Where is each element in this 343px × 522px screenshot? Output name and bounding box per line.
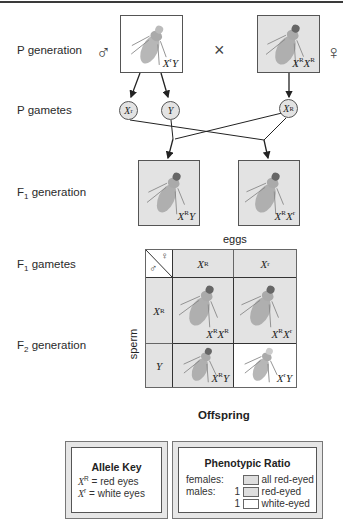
egg-header-xr: Xr <box>234 250 296 278</box>
label-p-generation: P generation <box>17 44 82 56</box>
allele-key-entry: Xr = white eyes <box>72 487 161 499</box>
eggs-label: eggs <box>223 233 247 245</box>
p-female-fly-box: XRXR <box>257 15 320 73</box>
label-f1-generation: F1 generation <box>17 186 86 201</box>
allele-key-box: Allele Key XR = red eyes Xr = white eyes <box>65 441 168 519</box>
label-f1-gametes: F1 gametes <box>17 258 76 273</box>
genotype-label: XRY <box>211 371 229 384</box>
phenotypic-ratio-inner: Phenotypic Ratio females: all red-eyed m… <box>178 447 317 513</box>
ratio-row-females: females: all red-eyed <box>186 474 314 485</box>
punnett-cell-XRXR: XRXR <box>173 278 234 344</box>
gamete-xr: Xr <box>119 101 138 120</box>
genotype-label: XrY <box>163 56 178 69</box>
sperm-header-y: Y <box>146 344 173 387</box>
genotype-label: XRXr <box>272 327 292 340</box>
offspring-label: Offspring <box>198 409 250 421</box>
male-symbol-icon: ♂ <box>96 42 111 62</box>
f1-male-fly-box: XRY <box>138 160 200 226</box>
female-symbol-icon: ♀ <box>161 250 169 261</box>
genotype-label: XRY <box>177 209 195 222</box>
punnett-cell-XRXr: XRXr <box>234 278 296 344</box>
red-eyed-swatch <box>243 475 259 485</box>
f1-female-fly-box: XRXr <box>238 160 300 226</box>
gamete-y: Y <box>161 101 180 120</box>
genotype-label: XRXr <box>275 209 295 222</box>
cross-symbol-icon: × <box>214 41 225 59</box>
ratio-row-males-white: 1 white-eyed <box>186 498 310 509</box>
allele-key-inner: Allele Key XR = red eyes Xr = white eyes <box>71 447 162 513</box>
genotype-label: XRXR <box>292 56 315 69</box>
punnett-corner: ♂ ♀ <box>146 250 173 278</box>
ratio-row-males-red: males:1 red-eyed <box>186 486 301 497</box>
genotype-label: XRXR <box>206 327 229 340</box>
sperm-label: sperm <box>127 329 139 360</box>
p-male-fly-box: XrY <box>120 15 183 73</box>
punnett-cell-XrY: XrY <box>234 344 296 387</box>
allele-key-title: Allele Key <box>72 461 161 473</box>
phenotypic-ratio-title: Phenotypic Ratio <box>179 457 316 469</box>
punnett-square: ♂ ♀ XR Xr XR Y XRXR XRXr <box>145 249 297 388</box>
female-symbol-icon: ♀ <box>326 42 341 62</box>
fly-icon <box>240 280 286 332</box>
male-symbol-icon: ♂ <box>149 262 157 274</box>
phenotypic-ratio-box: Phenotypic Ratio females: all red-eyed m… <box>172 441 323 519</box>
egg-header-xR: XR <box>173 250 234 278</box>
label-f2-generation: F2 generation <box>17 339 86 354</box>
genotype-label: XrY <box>277 371 292 384</box>
allele-key-entry: XR = red eyes <box>72 475 161 487</box>
punnett-cell-XRY: XRY <box>173 344 234 387</box>
gamete-xR: XR <box>279 99 298 118</box>
red-eyed-swatch <box>243 487 259 497</box>
white-eyed-swatch <box>243 499 259 509</box>
label-p-gametes: P gametes <box>17 104 72 116</box>
sperm-header-xR: XR <box>146 278 173 344</box>
fly-icon <box>179 280 225 332</box>
